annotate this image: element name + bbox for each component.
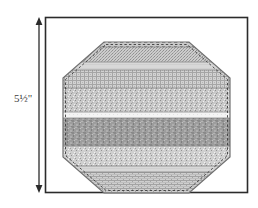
band-highlight-white-strip [60, 112, 235, 118]
band-crosshatch-weave-strip [60, 70, 235, 88]
band-speckle-strip [60, 88, 235, 112]
band-coarse-speckle-strip [60, 146, 235, 166]
band-light-plain-strip [60, 62, 235, 70]
figure-canvas [0, 0, 258, 208]
dimension-line [36, 17, 43, 193]
octagon-block-figure: 5½" [0, 0, 258, 208]
dimension-label: 5½" [6, 92, 40, 104]
dimension-arrow-top [36, 17, 43, 25]
dimension-arrow-bottom [36, 185, 43, 193]
band-dark-mottled-strip [60, 118, 235, 146]
band-light-plain-strip-lower [60, 166, 235, 172]
